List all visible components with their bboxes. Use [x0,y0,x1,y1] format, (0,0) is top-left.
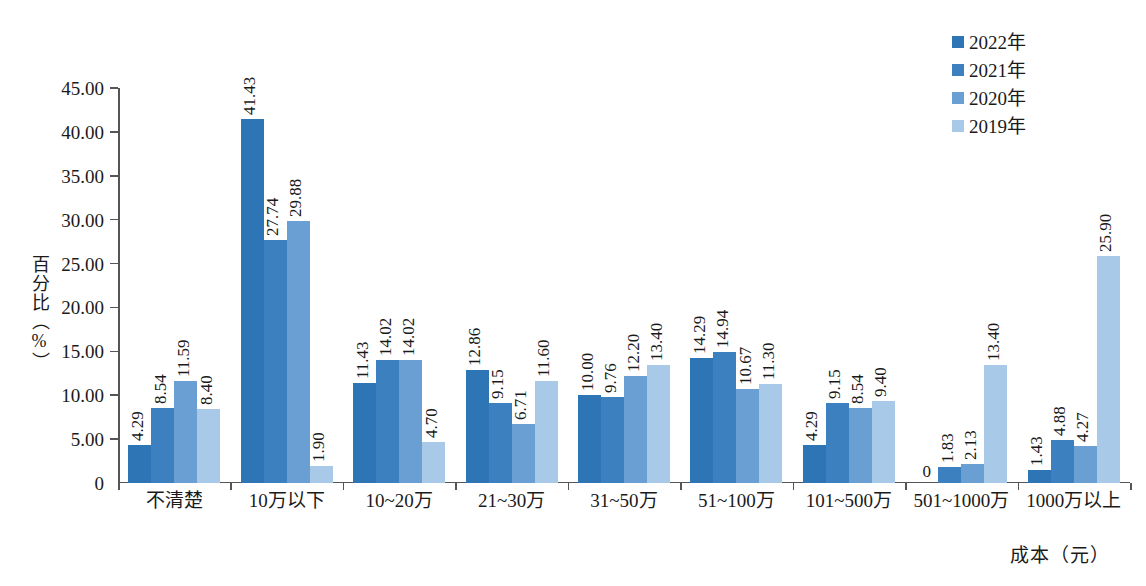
x-axis-tick [1130,483,1132,490]
y-axis-tick [110,131,118,133]
bar-10~20万-2022年[interactable]: 11.43 [353,88,376,483]
bar-value-label: 9.76 [602,364,619,394]
bar-value-label: 13.40 [985,323,1002,361]
x-axis-tick [455,483,457,490]
bar-rect [399,360,422,483]
bar-value-label: 14.94 [714,310,731,348]
bar-501~1000万-2022年[interactable]: 0 [915,88,938,483]
bar-value-label: 11.60 [535,340,552,378]
bar-501~1000万-2021年[interactable]: 1.83 [938,88,961,483]
bar-31~50万-2022年[interactable]: 10.00 [578,88,601,483]
bar-51~100万-2020年[interactable]: 10.67 [736,88,759,483]
y-axis-tick [110,87,118,89]
y-axis-tick-label: 5.00 [71,430,104,449]
bar-value-label: 4.70 [423,408,440,438]
bar-rect [872,401,895,484]
bar-不清楚-2021年[interactable]: 8.54 [151,88,174,483]
bar-501~1000万-2019年[interactable]: 13.40 [984,88,1007,483]
y-axis-tick-label: 0 [95,474,105,493]
bar-31~50万-2019年[interactable]: 13.40 [647,88,670,483]
bar-rect [422,442,445,483]
bar-不清楚-2022年[interactable]: 4.29 [128,88,151,483]
bar-10~20万-2020年[interactable]: 14.02 [399,88,422,483]
x-axis-tick [680,483,682,490]
x-axis-tick [1018,483,1020,490]
bar-21~30万-2021年[interactable]: 9.15 [489,88,512,483]
x-axis-tick [230,483,232,490]
bar-31~50万-2020年[interactable]: 12.20 [624,88,647,483]
bar-rect [197,409,220,483]
plot-area: 05.0010.0015.0020.0025.0030.0035.0040.00… [118,88,1130,483]
x-axis-category-label: 21~30万 [455,491,567,510]
bar-rect [512,424,535,483]
x-axis-title: 成本（元） [1010,546,1110,565]
x-axis-category-label: 51~100万 [680,491,792,510]
bar-rect [535,381,558,483]
bar-rect [353,383,376,483]
bar-10万以下-2022年[interactable]: 41.43 [241,88,264,483]
bar-value-label: 1.43 [1028,437,1045,467]
bar-rect [1051,440,1074,483]
bar-value-label: 4.27 [1074,412,1091,442]
y-axis-tick-label: 25.00 [61,254,104,273]
y-axis-tick-label: 40.00 [61,122,104,141]
bar-51~100万-2022年[interactable]: 14.29 [690,88,713,483]
legend-item-2022年[interactable]: 2022年 [952,28,1132,56]
bar-value-label: 13.40 [648,323,665,361]
legend-swatch-icon [952,64,964,76]
bar-101~500万-2022年[interactable]: 4.29 [803,88,826,483]
y-axis-tick [110,351,118,353]
bar-10万以下-2020年[interactable]: 29.88 [287,88,310,483]
bar-21~30万-2020年[interactable]: 6.71 [512,88,535,483]
y-axis-tick-label: 10.00 [61,386,104,405]
bar-不清楚-2019年[interactable]: 8.40 [197,88,220,483]
bar-value-label: 0 [923,463,932,480]
bar-1000万以上-2022年[interactable]: 1.43 [1028,88,1051,483]
bar-1000万以上-2021年[interactable]: 4.88 [1051,88,1074,483]
bar-21~30万-2019年[interactable]: 11.60 [535,88,558,483]
bar-31~50万-2021年[interactable]: 9.76 [601,88,624,483]
x-axis-category-label: 31~50万 [568,491,680,510]
bar-1000万以上-2020年[interactable]: 4.27 [1074,88,1097,483]
bar-rect [713,352,736,483]
bar-value-label: 4.29 [129,412,146,442]
x-axis-tick [118,483,120,490]
y-axis-tick-label: 20.00 [61,298,104,317]
bar-rect [690,358,713,483]
bar-51~100万-2019年[interactable]: 11.30 [759,88,782,483]
bar-rect [264,240,287,483]
bar-value-label: 11.43 [354,341,371,379]
bar-rect [759,384,782,483]
legend-item-label: 2021年 [969,61,1026,80]
bar-101~500万-2021年[interactable]: 9.15 [826,88,849,483]
legend-item-2021年[interactable]: 2021年 [952,56,1132,84]
bar-101~500万-2020年[interactable]: 8.54 [849,88,872,483]
x-axis-category-label: 10~20万 [343,491,455,510]
bar-10万以下-2021年[interactable]: 27.74 [264,88,287,483]
bar-value-label: 27.74 [264,197,281,235]
bar-value-label: 8.40 [198,376,215,406]
bar-value-label: 1.83 [939,433,956,463]
bar-value-label: 11.30 [760,342,777,380]
bar-value-label: 14.02 [377,318,394,356]
bar-51~100万-2021年[interactable]: 14.94 [713,88,736,483]
bar-21~30万-2022年[interactable]: 12.86 [466,88,489,483]
legend-swatch-icon [952,36,964,48]
y-axis-tick [110,219,118,221]
bar-1000万以上-2019年[interactable]: 25.90 [1097,88,1120,483]
x-axis-category-label: 10万以下 [230,491,342,510]
bar-不清楚-2020年[interactable]: 11.59 [174,88,197,483]
bar-10~20万-2021年[interactable]: 14.02 [376,88,399,483]
x-axis-category-label: 501~1000万 [905,491,1017,510]
bar-101~500万-2019年[interactable]: 9.40 [872,88,895,483]
bar-rect [803,445,826,483]
y-axis-title: 百分比（%） [8,255,48,371]
bar-rect [174,381,197,483]
bar-10~20万-2019年[interactable]: 4.70 [422,88,445,483]
bar-rect [578,395,601,483]
bar-501~1000万-2020年[interactable]: 2.13 [961,88,984,483]
y-axis-tick [110,438,118,440]
bar-value-label: 9.15 [489,369,506,399]
bar-10万以下-2019年[interactable]: 1.90 [310,88,333,483]
bar-value-label: 6.71 [512,390,529,420]
